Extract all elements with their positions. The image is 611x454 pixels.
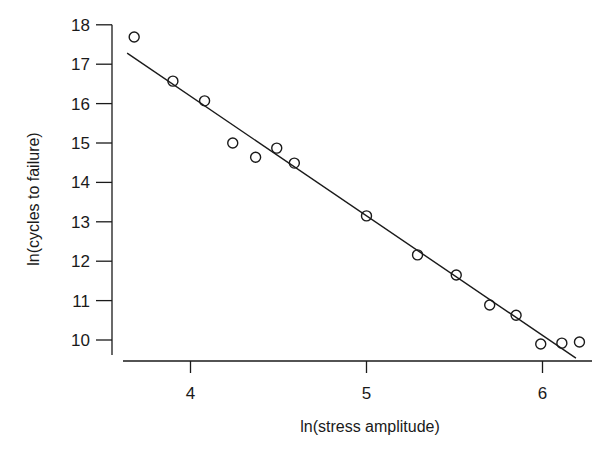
y-tick-label: 12 <box>71 252 90 271</box>
data-point <box>251 152 261 162</box>
data-points <box>129 32 584 349</box>
y-axis-ticks: 101112131415161718 <box>71 16 112 350</box>
data-point <box>272 143 282 153</box>
data-point <box>413 250 423 260</box>
y-tick-label: 11 <box>72 292 90 311</box>
x-axis-ticks: 456 <box>186 361 547 403</box>
data-point <box>228 138 238 148</box>
y-tick-label: 10 <box>71 331 90 350</box>
y-tick-label: 18 <box>71 16 90 35</box>
y-tick-label: 14 <box>71 173 90 192</box>
x-tick-label: 5 <box>362 384 371 403</box>
regression-line <box>127 53 576 358</box>
x-axis-title: ln(stress amplitude) <box>300 418 440 435</box>
x-tick-label: 6 <box>538 384 547 403</box>
data-point <box>557 338 567 348</box>
data-point <box>200 96 210 106</box>
x-tick-label: 4 <box>186 384 195 403</box>
data-point <box>536 339 546 349</box>
y-axis-title: ln(cycles to failure) <box>25 132 42 265</box>
y-tick-label: 17 <box>71 55 90 74</box>
y-tick-label: 16 <box>71 95 90 114</box>
data-point <box>129 32 139 42</box>
y-tick-label: 13 <box>71 213 90 232</box>
scatter-chart: 101112131415161718 456 ln(stress amplitu… <box>0 0 611 454</box>
data-point <box>574 337 584 347</box>
data-point <box>485 300 495 310</box>
y-tick-label: 15 <box>71 134 90 153</box>
